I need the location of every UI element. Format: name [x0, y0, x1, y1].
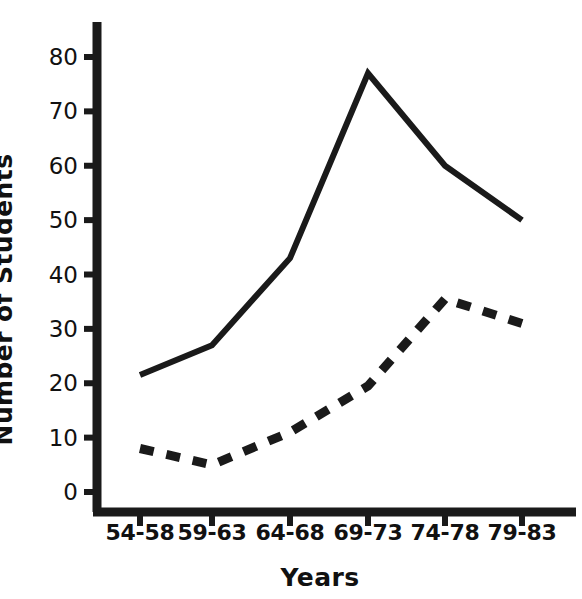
x-axis-title: Years [0, 563, 582, 592]
series-line-dashed-series [140, 299, 522, 465]
x-tick-label: 54-58 [106, 520, 175, 545]
x-tick-label: 59-63 [178, 520, 247, 545]
x-tick-label: 74-78 [411, 520, 480, 545]
x-tick-label: 69-73 [334, 520, 403, 545]
x-tick-label: 64-68 [256, 520, 325, 545]
x-tick-label: 79-83 [488, 520, 557, 545]
series-line-solid-series [140, 73, 522, 375]
chart-figure: Number of Students 01020304050607080 54-… [0, 0, 582, 599]
plot-area [0, 0, 582, 599]
